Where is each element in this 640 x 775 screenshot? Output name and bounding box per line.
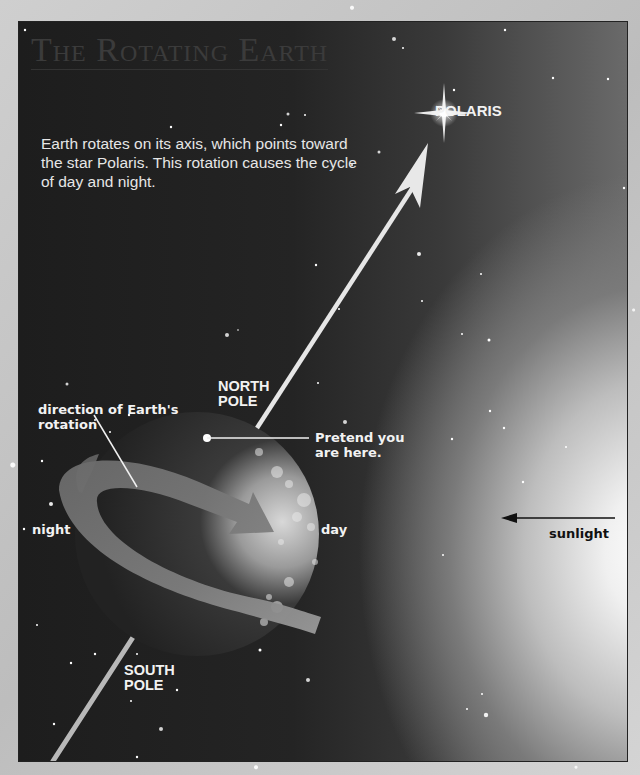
rotation-label-line1: direction of Earth's: [38, 402, 178, 417]
pretend-label-line1: Pretend you: [315, 430, 405, 445]
night-label: night: [32, 522, 71, 537]
intro-text: Earth rotates on its axis, which points …: [41, 134, 361, 191]
day-label: day: [321, 522, 347, 537]
south-pole-label-line2: POLE: [124, 678, 175, 693]
sunlight-label: sunlight: [549, 526, 609, 541]
south-pole-label-line1: SOUTH: [124, 663, 175, 678]
north-pole-label: NORTH POLE: [218, 379, 270, 409]
axis-arrow-icon: [395, 143, 428, 208]
sunlight-arrow-icon: [501, 513, 615, 523]
diagram-panel: The Rotating Earth Earth rotates on its …: [18, 21, 628, 762]
pretend-label-line2: are here.: [315, 445, 405, 460]
south-axis-line: [53, 628, 139, 761]
south-pole-label: SOUTH POLE: [124, 663, 175, 693]
north-pole-label-line1: NORTH: [218, 379, 270, 394]
rotation-label: direction of Earth's rotation: [38, 402, 178, 432]
rotation-label-line2: rotation: [38, 417, 178, 432]
north-axis-line: [257, 184, 415, 428]
diagram-artwork: [19, 22, 627, 761]
pretend-label: Pretend you are here.: [315, 430, 405, 460]
polaris-label: POLARIS: [435, 103, 502, 118]
diagram-title: The Rotating Earth: [31, 32, 328, 70]
north-pole-label-line2: POLE: [218, 394, 270, 409]
